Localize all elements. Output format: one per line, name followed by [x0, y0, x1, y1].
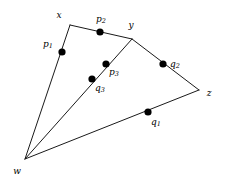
vertex-label-x: x: [56, 11, 61, 20]
point-label-q3: q3: [95, 84, 105, 94]
point-dot-q3: [88, 75, 95, 82]
point-dot-p1: [58, 48, 65, 55]
point-label-p2: p2: [96, 15, 106, 25]
vertex-label-y: y: [128, 21, 133, 30]
point-dot-q2: [159, 60, 166, 67]
point-dot-p2: [96, 28, 103, 35]
geometry-figure: p1p2p3q3q2q1wxyz: [0, 0, 226, 179]
vertex-label-z: z: [207, 89, 212, 98]
point-label-q2: q2: [170, 60, 180, 70]
point-label-p1: p1: [43, 40, 53, 50]
point-label-q1: q1: [151, 118, 161, 128]
point-label-p3: p3: [109, 68, 119, 78]
vertex-label-w: w: [13, 167, 21, 176]
point-dot-q1: [144, 108, 151, 115]
chord-w-y: [25, 39, 132, 159]
internal-chords: [25, 39, 132, 159]
edge-z-w: [25, 90, 199, 159]
figure-canvas: [0, 0, 226, 179]
